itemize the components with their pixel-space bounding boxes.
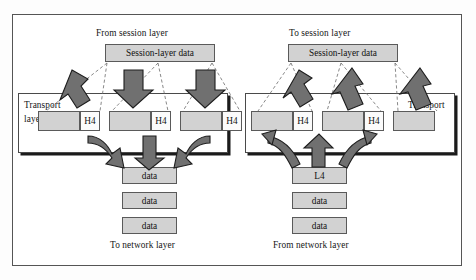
left-title: From session layer [96, 28, 168, 38]
left-segment-1-header: H4 [80, 111, 100, 131]
right-session-layer-data-box: Session-layer data [288, 44, 398, 62]
left-segment-1-data [38, 111, 80, 131]
left-segment-3-header: H4 [222, 111, 242, 131]
right-segment-2-header: H4 [364, 111, 384, 131]
diagram-canvas: From session layer Session-layer data Tr… [0, 0, 476, 280]
right-segment-2-data [322, 111, 364, 131]
left-transport-label-line1: Transport [24, 100, 61, 110]
left-segment-2-header: H4 [151, 111, 171, 131]
left-segment-2-data [109, 111, 151, 131]
left-network-box-3: data [122, 217, 177, 234]
right-segment-1-data [251, 111, 293, 131]
left-session-layer-data-box: Session-layer data [105, 44, 215, 62]
right-network-caption: From network layer [273, 240, 349, 250]
left-network-caption: To network layer [110, 240, 175, 250]
right-title: To session layer [289, 28, 350, 38]
right-network-box-3: data [292, 217, 347, 234]
right-network-box-2: data [292, 192, 347, 209]
right-segment-3-data [393, 111, 435, 131]
right-network-box-1: L4 [292, 167, 347, 184]
left-segment-3-data [180, 111, 222, 131]
left-network-box-2: data [122, 192, 177, 209]
right-transport-label-line1: Transport [408, 100, 445, 110]
left-network-box-1: data [122, 167, 177, 184]
right-segment-1-header: H4 [293, 111, 313, 131]
